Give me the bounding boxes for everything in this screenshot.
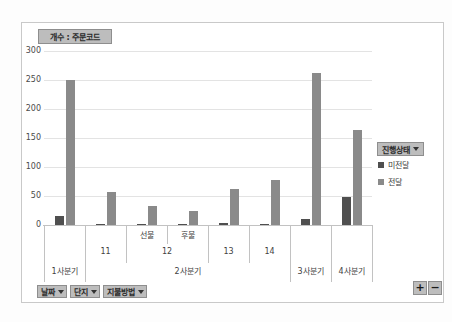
page: { "colors": { "undelivered": "#4f4f4f", … xyxy=(0,0,452,322)
y-tick-label: 200 xyxy=(22,104,41,113)
y-tick-label: 150 xyxy=(22,133,41,142)
axis-category-label: 선불 xyxy=(140,229,154,240)
axis-category-label: 3사분기 xyxy=(297,265,323,276)
plot-area xyxy=(44,51,372,225)
y-gridline xyxy=(44,167,372,168)
dropdown-arrow-icon xyxy=(138,290,144,294)
legend-label: 미전달 xyxy=(388,159,409,170)
axis-category-label: 12 xyxy=(162,247,172,256)
axis-field-button-label: 단지 xyxy=(74,286,88,297)
bar-전달-후불 xyxy=(189,211,198,225)
y-tick-label: 100 xyxy=(22,162,41,171)
bar-전달-선불 xyxy=(148,206,157,225)
legend-field-label: 진행상태 xyxy=(382,144,410,155)
axis-field-button-2[interactable]: 단지 xyxy=(70,285,100,298)
y-gridline xyxy=(44,196,372,197)
dropdown-arrow-icon xyxy=(91,290,97,294)
bar-전달-4사분기 xyxy=(353,130,362,225)
dropdown-arrow-icon xyxy=(413,147,419,151)
axis-divider xyxy=(85,225,86,282)
axis-divider xyxy=(167,225,168,244)
bar-전달-3사분기 xyxy=(312,73,321,225)
axis-divider xyxy=(372,225,373,282)
axis-field-button-label: 날짜 xyxy=(41,286,55,297)
axis-divider xyxy=(208,225,209,263)
legend-swatch-icon xyxy=(378,162,384,168)
expand-field-button[interactable]: + xyxy=(413,281,427,295)
y-gridline xyxy=(44,109,372,110)
bar-전달-14 xyxy=(271,180,280,225)
axis-field-button-label: 지불방법 xyxy=(107,286,135,297)
axis-category-label: 2사분기 xyxy=(174,265,200,276)
axis-divider xyxy=(126,225,127,263)
bar-전달-11 xyxy=(107,192,116,225)
values-field-label: 개수 : 주문코드 xyxy=(50,31,101,42)
y-gridline xyxy=(44,80,372,81)
axis-field-button-1[interactable]: 날짜 xyxy=(37,285,67,298)
y-gridline xyxy=(44,138,372,139)
axis-category-label: 14 xyxy=(264,247,274,256)
bar-미전달-1사분기 xyxy=(55,216,64,225)
axis-category-label: 4사분기 xyxy=(338,265,364,276)
bar-전달-13 xyxy=(230,189,239,225)
axis-category-label: 1사분기 xyxy=(51,265,77,276)
axis-divider xyxy=(331,225,332,282)
pivot-chart-frame: 개수 : 주문코드 진행상태 날짜단지지불방법 + − 300250200150… xyxy=(21,22,444,303)
legend-field-button[interactable]: 진행상태 xyxy=(377,142,424,156)
axis-category-label: 11 xyxy=(100,247,110,256)
y-gridline xyxy=(44,51,372,52)
axis-divider xyxy=(290,225,291,282)
legend-item: 미전달 xyxy=(378,159,409,170)
bar-미전달-4사분기 xyxy=(342,197,351,225)
y-tick-label: 300 xyxy=(22,46,41,55)
axis-category-label: 후불 xyxy=(181,229,195,240)
values-field-button[interactable]: 개수 : 주문코드 xyxy=(38,29,112,44)
collapse-field-button[interactable]: − xyxy=(428,281,442,295)
legend-swatch-icon xyxy=(378,179,384,185)
legend-label: 전달 xyxy=(388,176,402,187)
axis-divider xyxy=(44,225,45,282)
y-tick-label: 0 xyxy=(22,220,41,229)
legend-item: 전달 xyxy=(378,176,402,187)
axis-category-label: 13 xyxy=(223,247,233,256)
axis-field-button-3[interactable]: 지불방법 xyxy=(103,285,147,298)
bar-전달-1사분기 xyxy=(66,80,75,225)
y-tick-label: 50 xyxy=(22,191,41,200)
dropdown-arrow-icon xyxy=(58,290,64,294)
axis-divider xyxy=(249,225,250,263)
y-tick-label: 250 xyxy=(22,75,41,84)
